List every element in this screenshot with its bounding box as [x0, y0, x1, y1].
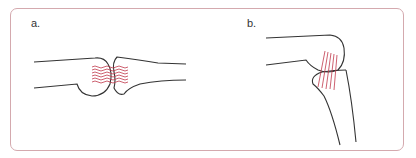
diagram-canvas	[0, 0, 416, 158]
panel-b-bones	[266, 35, 356, 145]
panel-a-bones	[34, 57, 186, 96]
